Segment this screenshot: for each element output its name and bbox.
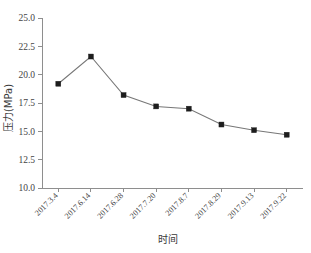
chart-container: 10.012.515.017.520.022.525.0 2017.3.4201… (0, 0, 311, 253)
y-tick-label: 15.0 (18, 127, 35, 137)
x-axis-title: 时间 (158, 233, 178, 245)
data-point-marker (219, 122, 224, 127)
data-point-marker (186, 106, 191, 111)
data-point-marker (121, 93, 126, 98)
y-tick-label: 20.0 (18, 70, 35, 80)
y-tick-label: 22.5 (18, 42, 35, 52)
data-point-marker (56, 81, 61, 86)
y-axis-title: 压力(MPa) (2, 84, 14, 132)
data-point-marker (284, 132, 289, 137)
data-point-marker (88, 54, 93, 59)
data-point-marker (154, 104, 159, 109)
y-tick-label: 17.5 (18, 98, 35, 108)
line-chart: 10.012.515.017.520.022.525.0 2017.3.4201… (0, 0, 311, 253)
y-tick-label: 12.5 (18, 155, 35, 165)
data-point-marker (252, 128, 257, 133)
y-tick-label: 10.0 (18, 183, 35, 193)
y-tick-label: 25.0 (18, 13, 35, 23)
